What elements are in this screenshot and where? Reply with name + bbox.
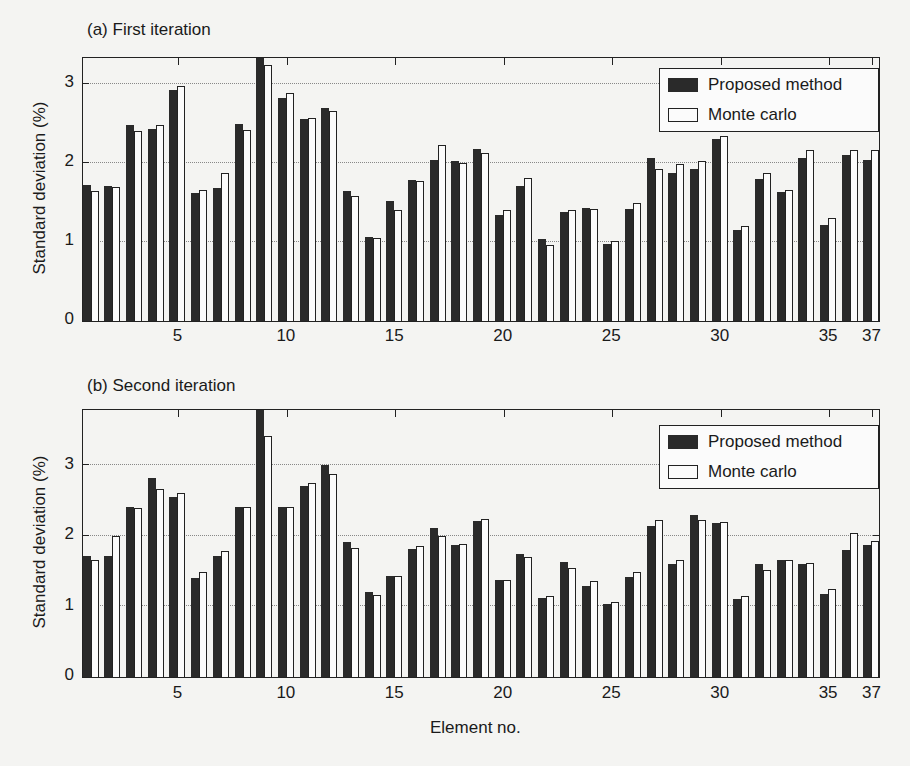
ytick-label: 1 [44,595,74,615]
legend-label: Proposed method [708,432,842,452]
bar-monte-carlo [308,483,316,677]
x-tick [612,410,613,417]
bar-monte-carlo [871,541,879,677]
bar-proposed-method [256,410,264,677]
plot-area: Proposed methodMonte carlo [82,409,880,678]
bar-proposed-method [126,507,134,677]
y-tick [873,535,879,536]
bar-proposed-method [148,478,156,677]
bar-proposed-method [83,556,91,677]
bar-monte-carlo [503,580,511,677]
x-axis-label: Element no. [430,718,521,738]
bar-monte-carlo [394,576,402,677]
bar-proposed-method [473,521,481,677]
bar-monte-carlo [698,520,706,677]
bar-monte-carlo [264,436,272,677]
legend-item-proposed-method: Proposed method [668,432,842,452]
bar-proposed-method [278,507,286,677]
bar-proposed-method [777,560,785,677]
y-tick [83,535,89,536]
x-tick [829,410,830,417]
x-tick-label: 25 [602,683,621,703]
bar-proposed-method [104,556,112,677]
bar-proposed-method [625,577,633,677]
bar-monte-carlo [416,546,424,677]
x-tick-label: 15 [385,683,404,703]
bar-monte-carlo [459,544,467,677]
x-tick-label: 35 [819,683,838,703]
x-tick [504,410,505,417]
bar-monte-carlo [438,536,446,677]
bar-monte-carlo [351,548,359,677]
bar-proposed-method [451,545,459,677]
x-tick [178,410,179,417]
bar-proposed-method [820,594,828,677]
bar-monte-carlo [785,560,793,677]
bar-proposed-method [712,523,720,677]
bar-monte-carlo [221,551,229,677]
bar-monte-carlo [177,493,185,677]
bar-monte-carlo [676,560,684,677]
ytick-label: 2 [44,524,74,544]
legend-swatch-proposed [668,435,698,449]
bar-proposed-method [842,550,850,677]
panel-second-iteration: (b) Second iteration Standard deviation … [0,0,910,766]
bar-monte-carlo [156,489,164,677]
legend-item-monte-carlo: Monte carlo [668,462,797,482]
bar-monte-carlo [199,572,207,677]
bar-monte-carlo [91,560,99,677]
bar-proposed-method [495,580,503,677]
bar-proposed-method [516,554,524,677]
x-tick-label: 5 [173,683,182,703]
legend-swatch-monte-carlo [668,465,698,479]
bar-monte-carlo [329,474,337,677]
bar-proposed-method [603,604,611,677]
bar-proposed-method [582,586,590,677]
legend: Proposed methodMonte carlo [659,425,879,489]
bar-proposed-method [798,564,806,677]
bar-monte-carlo [243,507,251,677]
bar-monte-carlo [720,522,728,677]
bar-monte-carlo [611,602,619,677]
bar-proposed-method [863,545,871,677]
bar-proposed-method [733,599,741,677]
bar-monte-carlo [828,589,836,677]
bar-monte-carlo [655,520,663,677]
bar-proposed-method [169,497,177,677]
bar-proposed-method [560,562,568,677]
x-tick [395,410,396,417]
bar-proposed-method [300,486,308,677]
bar-proposed-method [386,576,394,677]
panel-title: (b) Second iteration [87,376,235,396]
bar-proposed-method [343,542,351,677]
bar-monte-carlo [590,581,598,677]
x-tick-label: 10 [276,683,295,703]
bar-monte-carlo [633,572,641,677]
x-tick-label: 30 [710,683,729,703]
bar-proposed-method [647,526,655,677]
y-tick [83,464,89,465]
ytick-label: 0 [44,665,74,685]
bar-proposed-method [191,578,199,677]
bar-monte-carlo [568,568,576,677]
x-tick-label: 37 [862,683,881,703]
x-tick [872,410,873,417]
bar-proposed-method [668,564,676,677]
bar-monte-carlo [134,508,142,677]
bar-monte-carlo [112,536,120,677]
bar-monte-carlo [373,595,381,677]
bar-monte-carlo [741,596,749,677]
bar-monte-carlo [481,519,489,677]
bar-monte-carlo [806,563,814,677]
bar-proposed-method [235,507,243,677]
x-tick [287,410,288,417]
x-tick [721,410,722,417]
bar-proposed-method [365,592,373,677]
x-tick-label: 20 [493,683,512,703]
legend-label: Monte carlo [708,462,797,482]
bar-proposed-method [408,549,416,677]
bar-proposed-method [755,564,763,677]
bar-proposed-method [430,528,438,677]
bar-proposed-method [321,465,329,677]
ytick-label: 3 [44,454,74,474]
